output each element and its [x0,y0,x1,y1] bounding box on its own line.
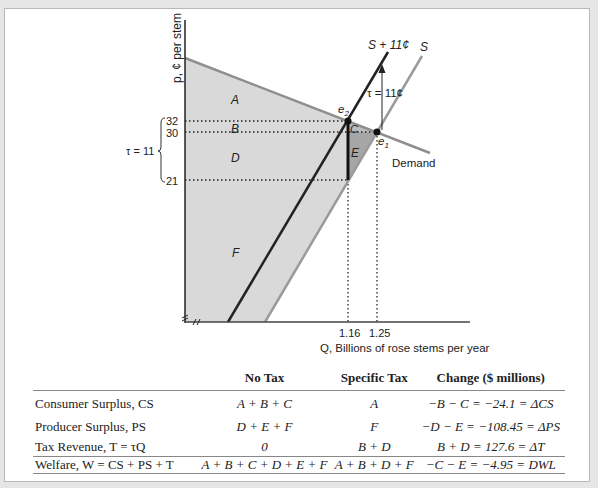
table-row: Welfare, W = CS + PS + T A + B + C + D +… [33,457,565,474]
region-c-label: C [350,123,358,135]
x-axis-label: Q, Billions of rose stems per year [320,342,490,354]
cell-no-tax: A + B + C [197,391,332,417]
table-header-row: No Tax Specific Tax Change ($ millions) [33,366,565,391]
cell-specific-tax: F [332,416,416,438]
region-b-label: B [231,122,239,136]
region-a-label: A [230,93,239,107]
region-f-label: F [232,246,240,260]
cell-change: B + D = 127.6 = ΔT [416,438,565,457]
row-label-tax-revenue: Tax Revenue, T = τQ [33,438,197,457]
y-tick-21: 21 [166,175,178,187]
row-label-producer-surplus: Producer Surplus, PS [33,416,197,438]
header-no-tax: No Tax [197,366,332,391]
tax-arrow-label: τ = 11¢ [367,87,403,99]
header-specific-tax: Specific Tax [332,366,416,391]
region-d-label: D [231,151,240,165]
supply-plus-tax-label: S + 11¢ [368,38,409,52]
row-label-welfare: Welfare, W = CS + PS + T [33,457,197,474]
cell-no-tax: D + E + F [197,416,332,438]
cell-specific-tax: A + B + D + F [332,457,416,474]
e2-label: e2 [338,103,349,118]
cell-no-tax: 0 [197,438,332,457]
x-tick-116: 1.16 [339,327,360,339]
table-row: Tax Revenue, T = τQ 0 B + D B + D = 127.… [33,438,565,457]
tax-bracket-label: τ = 11 [126,145,154,157]
surplus-region [185,58,377,322]
cell-change: −C − E = −4.95 = DWL [416,457,565,474]
supply-label: S [420,40,428,54]
y-axis-label: p, ¢ per stem [170,13,184,83]
y-tick-32: 32 [166,115,178,127]
cell-specific-tax: A [332,391,416,417]
cell-change: −B − C = −24.1 = ΔCS [416,391,565,417]
cell-no-tax: A + B + C + D + E + F [197,457,332,474]
table-row: Producer Surplus, PS D + E + F F −D − E … [33,416,565,438]
row-label-consumer-surplus: Consumer Surplus, CS [33,391,197,417]
x-tick-125: 1.25 [369,327,390,339]
tax-brace-icon [158,118,165,182]
region-e-label: E [351,146,360,160]
welfare-summary-table: No Tax Specific Tax Change ($ millions) … [33,366,565,474]
demand-label: Demand [392,157,435,169]
cell-change: −D − E = −108.45 = ΔPS [416,416,565,438]
cell-specific-tax: B + D [332,438,416,457]
header-blank [33,366,197,391]
header-change: Change ($ millions) [416,366,565,391]
y-tick-30: 30 [166,127,178,139]
table-row: Consumer Surplus, CS A + B + C A −B − C … [33,391,565,417]
